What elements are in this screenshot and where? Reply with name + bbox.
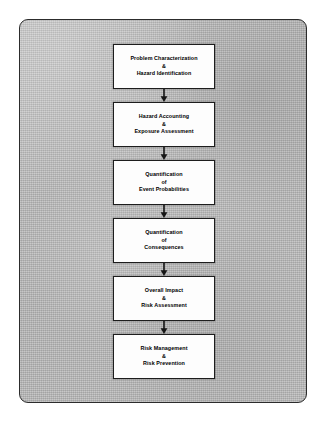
arrow-down-icon-4 (158, 263, 170, 276)
flowchart-container: Problem Characterization & Hazard Identi… (20, 20, 307, 403)
flow-step-2-line1: Hazard Accounting (139, 113, 189, 121)
scanned-page-frame: Problem Characterization & Hazard Identi… (19, 19, 307, 403)
flow-step-2[interactable]: Hazard Accounting & Exposure Assessment (113, 102, 215, 147)
arrow-down-icon-1 (158, 89, 170, 102)
flow-step-1-conjunction: & (162, 63, 166, 71)
flow-step-5[interactable]: Overall Impact & Risk Assessment (113, 276, 215, 321)
flow-step-1-line1: Problem Characterization (130, 55, 197, 63)
flow-step-3[interactable]: Quantification of Event Probabilities (113, 160, 215, 205)
flow-step-3-line1: Quantification (145, 171, 182, 179)
flow-step-6-conjunction: & (162, 353, 166, 361)
page-canvas: Problem Characterization & Hazard Identi… (0, 0, 327, 427)
arrow-down-icon-5 (158, 321, 170, 334)
flow-step-2-conjunction: & (162, 121, 166, 129)
arrow-down-icon-3 (158, 205, 170, 218)
flow-step-6[interactable]: Risk Management & Risk Prevention (113, 334, 215, 379)
flow-step-4-line2: Consequences (144, 244, 183, 252)
flow-step-5-conjunction: & (162, 295, 166, 303)
flow-step-5-line2: Risk Assessment (141, 302, 187, 310)
flow-step-5-line1: Overall Impact (145, 287, 183, 295)
flow-step-3-line2: Event Probabilities (139, 186, 189, 194)
flow-step-2-line2: Exposure Assessment (134, 128, 193, 136)
flow-step-4-line1: Quantification (145, 229, 182, 237)
flow-step-4-conjunction: of (161, 237, 166, 245)
flow-step-4[interactable]: Quantification of Consequences (113, 218, 215, 263)
flow-step-1-line2: Hazard Identification (137, 70, 192, 78)
flow-step-6-line1: Risk Management (140, 345, 187, 353)
flow-step-3-conjunction: of (161, 179, 166, 187)
flow-step-1[interactable]: Problem Characterization & Hazard Identi… (113, 44, 215, 89)
arrow-down-icon-2 (158, 147, 170, 160)
flow-step-6-line2: Risk Prevention (143, 360, 185, 368)
